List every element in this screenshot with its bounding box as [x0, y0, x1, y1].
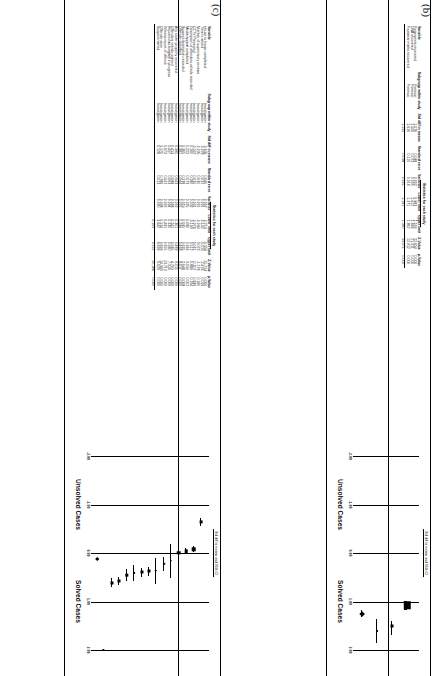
table-row: Footwear marks recoveredForensic1.6160.1… [405, 24, 409, 268]
panel-c-rule-bottom [64, 0, 65, 676]
effect-size-marker [110, 581, 113, 584]
summary-diamond [94, 557, 99, 562]
panel-c-rule-top [220, 0, 221, 676]
row-variable: Footwear marks recovered [405, 24, 409, 70]
row-subgroup: Forensic [405, 70, 409, 112]
table-row: 1.2550.0380.0011.1811.33033.0710.000 [401, 24, 405, 268]
effect-size-marker [177, 551, 180, 554]
axis-tick-label: 0.00 [348, 550, 352, 557]
row-upper-limit: 6.699 [155, 235, 159, 257]
row-upper-limit: 0.152 [150, 235, 154, 257]
row-p-value: 0.000 [150, 274, 154, 290]
row-p-value: 0.000 [405, 252, 409, 268]
table-column-header-row: Variable Subgroup within study Std diff … [416, 24, 420, 268]
row-lower-limit: 0.103 [150, 212, 154, 234]
effect-size-marker [118, 579, 121, 582]
axis-label-right: Solved Cases [75, 580, 82, 623]
axis-tick-label: -1.00 [86, 500, 90, 508]
col-upper: Upper limit [206, 235, 210, 257]
row-z-value: 33.071 [401, 235, 405, 251]
col-lower: Lower limit [416, 190, 420, 212]
row-std-error: 0.038 [401, 144, 405, 172]
table-row: Suspect namedInvestigation0.1280.0130.00… [155, 24, 159, 290]
row-upper-limit: 0.023 [195, 235, 199, 257]
row-variance: 0.000 [155, 194, 159, 212]
row-std-diff [150, 133, 154, 165]
col-p-value: p-Value [416, 252, 420, 268]
effect-size-marker [377, 630, 379, 632]
effect-size-marker [125, 574, 128, 577]
forest-plot-b: Std diff in means and 95% CI-2.00-1.000.… [331, 448, 427, 658]
axis-label-left: Unsolved Cases [75, 479, 82, 530]
row-subgroup [401, 70, 405, 112]
axis-tick-label: -2.00 [348, 452, 352, 460]
row-upper-limit: 1.862 [405, 213, 409, 235]
table-body-c: House to house completedInvestigation-0.… [150, 24, 206, 290]
col-variance: Variance [416, 172, 420, 190]
panel-c-table: Statistics for each study Variable Subgr… [150, 24, 215, 290]
table-column-header-row: Variable Subgroup within study Std diff … [206, 24, 210, 290]
axis-tick-label: -2.00 [86, 452, 90, 460]
row-std-diff: -0.035 [195, 133, 199, 165]
panel-b: (b) Statistics for each study Variable S… [239, 0, 435, 676]
row-subgroup: Investigation [155, 92, 159, 134]
col-std-diff: Std diff in means [206, 133, 210, 165]
col-variance: Variance [206, 194, 210, 212]
row-z-value: 10.188 [150, 257, 154, 273]
axis-tick-label: 0.00 [86, 550, 90, 557]
panel-b-table: Statistics for each study Variable Subgr… [401, 24, 425, 268]
row-std-diff: 1.255 [401, 112, 405, 144]
panel-b-rule-bottom [326, 0, 327, 676]
plot-gridline [353, 456, 419, 457]
summary-diamond [360, 611, 366, 617]
col-z-value: Z-Value [206, 257, 210, 273]
col-p-value: p-Value [206, 274, 210, 290]
axis-tick-label: 1.00 [86, 598, 90, 605]
row-std-error: 0.013 [155, 166, 159, 194]
statistics-table-b: Statistics for each study Variable Subgr… [401, 24, 425, 268]
table-row: Number of supervisory reviewsInvestigati… [195, 24, 199, 290]
axis-tick-label: 2.00 [86, 647, 90, 654]
col-variable: Variable [206, 24, 210, 92]
plot-gridline [91, 505, 209, 506]
effect-size-marker [133, 572, 135, 574]
row-variance: 0.001 [401, 172, 405, 190]
effect-size-marker [404, 601, 412, 609]
axis-tick-label: 1.00 [348, 598, 352, 605]
row-subgroup: Investigation [195, 92, 199, 134]
col-upper: Upper limit [416, 213, 420, 235]
col-lower: Lower limit [206, 212, 210, 234]
effect-size-marker [140, 571, 143, 574]
plot-gridline [353, 650, 419, 651]
row-variable [150, 24, 154, 92]
effect-size-marker [156, 570, 158, 572]
effect-size-marker [192, 548, 195, 551]
row-z-value: -1.178 [195, 257, 199, 273]
row-subgroup [150, 92, 154, 134]
row-p-value: 0.240 [195, 274, 199, 290]
forest-plot-c: Std diff in means and 95% CI-2.00-1.000.… [69, 448, 217, 658]
table-row: Witness report of offenceInvestigation0.… [162, 24, 166, 290]
plot-gridline [91, 650, 209, 651]
row-p-value: 0.000 [155, 274, 159, 290]
col-std-diff: Std diff in means [416, 112, 420, 144]
panel-c: (c) Statistics for each study Variable S… [0, 0, 225, 676]
effect-size-marker [171, 560, 173, 562]
row-upper-limit: 1.330 [401, 213, 405, 235]
row-variable [401, 24, 405, 70]
axis-tick-label: -1.00 [348, 500, 352, 508]
effect-size-marker [185, 550, 188, 553]
row-variance: 0.001 [195, 194, 199, 212]
axis-tick-label: 2.00 [348, 647, 352, 654]
row-lower-limit: 1.371 [405, 190, 409, 212]
plot-gridline [353, 553, 419, 554]
row-lower-limit: 1.181 [401, 190, 405, 212]
effect-size-marker [163, 563, 165, 565]
panel-c-letter: (c) [211, 4, 223, 16]
col-variable: Variable [416, 24, 420, 70]
row-lower-limit: 3.642 [155, 212, 159, 234]
axis-label-left: Unsolved Cases [337, 479, 344, 530]
table-body-b: Fingerprints recoveredForensic1.0760.048… [401, 24, 417, 268]
row-lower-limit: -0.094 [195, 212, 199, 234]
out-of-range-arrow: ▸ [101, 649, 107, 652]
